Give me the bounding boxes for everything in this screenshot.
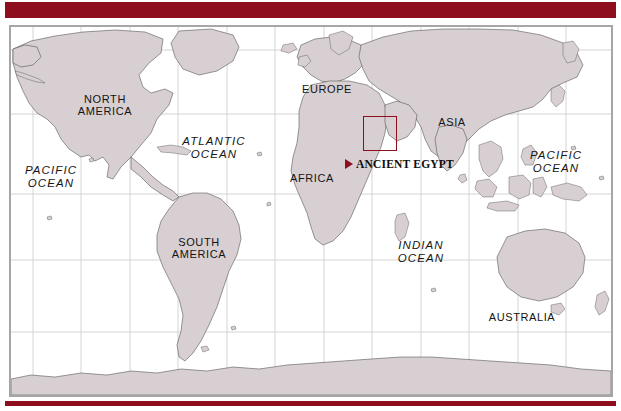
right-triangle-marker-icon	[345, 159, 353, 169]
ancient-egypt-highlight-box	[363, 116, 397, 151]
world-map-frame: .land { fill:#d8cfd2; stroke:#4a4a4a; st…	[9, 25, 613, 397]
ancient-egypt-callout-label: ANCIENT EGYPT	[356, 158, 454, 170]
world-map-canvas: .land { fill:#d8cfd2; stroke:#4a4a4a; st…	[11, 27, 611, 395]
ancient-egypt-callout: ANCIENT EGYPT	[345, 158, 454, 170]
map-figure: .land { fill:#d8cfd2; stroke:#4a4a4a; st…	[0, 0, 621, 411]
world-map-svg: .land { fill:#d8cfd2; stroke:#4a4a4a; st…	[11, 27, 611, 395]
bottom-accent-bar	[5, 401, 616, 406]
top-accent-bar	[5, 2, 616, 18]
